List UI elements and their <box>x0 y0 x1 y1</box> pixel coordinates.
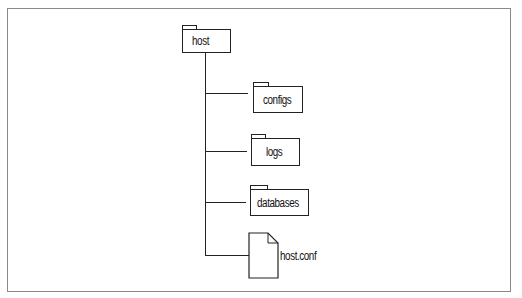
branch-line-configs <box>205 93 248 94</box>
folder-databases[interactable]: databases <box>250 185 309 216</box>
folder-label: host <box>192 34 209 48</box>
file-icon[interactable] <box>248 232 280 280</box>
folder-label: configs <box>263 93 291 107</box>
folder-body: configs <box>253 86 303 113</box>
folder-label: logs <box>261 145 282 159</box>
folder-logs[interactable]: logs <box>251 134 300 166</box>
folder-label: databases <box>257 196 299 210</box>
file-label-hostconf: host.conf <box>280 249 324 263</box>
branch-line-databases <box>205 202 246 203</box>
folder-body: logs <box>251 138 300 166</box>
folder-host[interactable]: host <box>182 25 231 53</box>
branch-line-logs <box>205 151 247 152</box>
folder-body: databases <box>250 189 309 216</box>
folder-body: host <box>182 29 231 53</box>
branch-line-hostconf <box>205 255 249 256</box>
trunk-line <box>205 53 206 256</box>
folder-configs[interactable]: configs <box>253 82 303 113</box>
